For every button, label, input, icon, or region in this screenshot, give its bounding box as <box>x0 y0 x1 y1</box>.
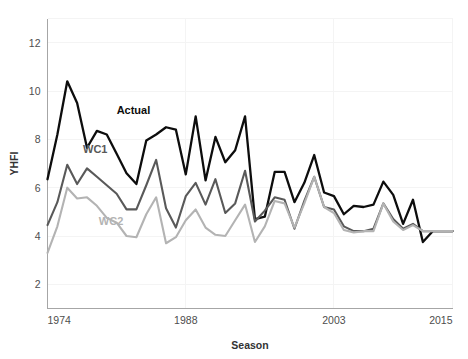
series-label-wc2: WC2 <box>99 215 123 227</box>
series-label-actual: Actual <box>117 104 151 116</box>
line-chart: 246810121974198820032015SeasonYHFIActual… <box>0 0 468 359</box>
y-tick-label: 8 <box>35 133 41 145</box>
chart-title <box>0 0 468 6</box>
x-tick-label: 1974 <box>48 314 72 326</box>
y-tick-label: 4 <box>35 230 41 242</box>
x-tick-label: 2003 <box>322 314 346 326</box>
y-tick-label: 2 <box>35 278 41 290</box>
x-tick-label: 1988 <box>174 314 198 326</box>
series-label-wc1: WC1 <box>83 143 107 155</box>
x-tick-label: 2015 <box>429 314 453 326</box>
y-tick-label: 6 <box>35 182 41 194</box>
x-axis-title: Season <box>231 339 268 351</box>
chart-container: 246810121974198820032015SeasonYHFIActual… <box>0 0 468 359</box>
y-axis-title: YHFI <box>8 151 20 175</box>
y-tick-label: 10 <box>29 85 41 97</box>
y-tick-label: 12 <box>29 37 41 49</box>
